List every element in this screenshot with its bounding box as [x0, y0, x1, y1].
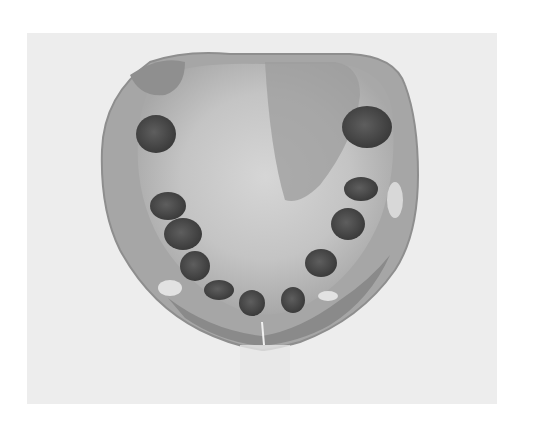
socket-canine-right [305, 249, 337, 277]
socket-incisor-right-1 [281, 287, 305, 313]
dental-cast-illustration [0, 0, 533, 422]
highlight [318, 291, 338, 301]
photograph [27, 33, 497, 404]
socket-premolar-right-1 [344, 177, 378, 201]
socket-molar-right [342, 106, 392, 148]
socket-canine-left [180, 251, 210, 281]
socket-premolar-left-1 [150, 192, 186, 220]
highlight [158, 280, 182, 296]
base-shadow [240, 345, 290, 400]
socket-premolar-right-2 [331, 208, 365, 240]
socket-incisor-left-2 [204, 280, 234, 300]
socket-premolar-left-2 [164, 218, 202, 250]
highlight [387, 182, 403, 218]
socket-molar-left [136, 115, 176, 153]
socket-incisor-left-1 [239, 290, 265, 316]
